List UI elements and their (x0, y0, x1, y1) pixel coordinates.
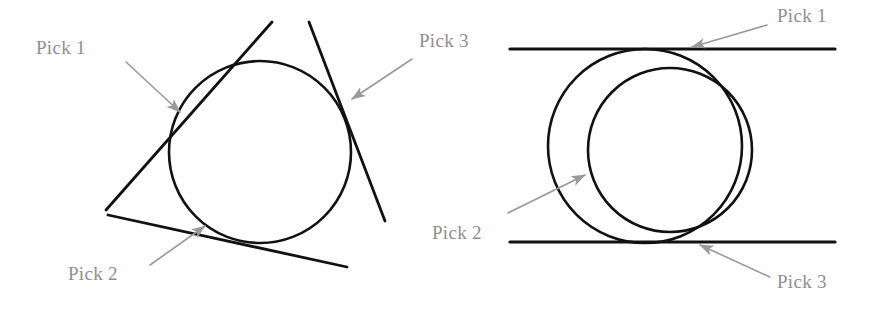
label-pick-1-left: Pick 1 (36, 38, 86, 57)
leader-line-pick-3-right (700, 245, 770, 277)
figure-root: Pick 1 Pick 2 Pick 3 Pick 1 Pick 2 Pick … (0, 0, 886, 314)
right-diagram (508, 25, 835, 277)
label-pick-1-right: Pick 1 (777, 6, 827, 25)
leader-line-pick-2-right (508, 175, 585, 213)
label-pick-3-left: Pick 3 (419, 31, 469, 50)
leader-line-pick-2-left (150, 226, 205, 265)
leader-line-pick-1-right (692, 25, 767, 47)
label-pick-2-left: Pick 2 (68, 264, 118, 283)
left-diagram (106, 22, 412, 267)
tangent-bottom-line (108, 215, 347, 267)
right-outer-circle (548, 49, 742, 243)
right-inner-circle (588, 68, 752, 232)
leader-line-pick-3-left (352, 59, 412, 99)
leader-line-pick-1-left (126, 62, 180, 112)
left-circle (169, 61, 351, 243)
label-pick-2-right: Pick 2 (432, 223, 482, 242)
tangent-upper-left-line (106, 22, 272, 210)
label-pick-3-right: Pick 3 (777, 272, 827, 291)
